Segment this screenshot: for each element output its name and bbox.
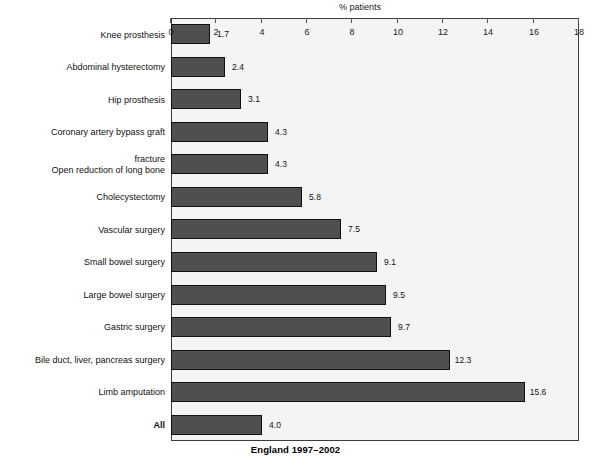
bar-value-label: 5.8 [306, 192, 324, 202]
bar-value-label: 4.0 [266, 420, 284, 430]
bar-rect [171, 57, 225, 77]
bar-value-label: 9.7 [395, 322, 413, 332]
bar-rect [171, 187, 302, 207]
bar-open-reduction-of-long-bone-fracture [171, 154, 591, 174]
x-tick-mark-0 [170, 18, 171, 23]
bar-rect [171, 154, 268, 174]
x-axis-title: % patients [129, 2, 591, 12]
bar-value-label: 9.1 [381, 257, 399, 267]
bar-value-label: 7.5 [345, 225, 363, 235]
category-label: Abdominal hysterectomy [3, 62, 165, 73]
category-label: Large bowel surgery [3, 289, 165, 300]
bar-value-label: 4.3 [272, 127, 290, 137]
category-label-line: Limb amputation [3, 387, 165, 398]
bar-value-label: 15.6 [529, 387, 547, 397]
bar-rect [171, 252, 377, 272]
bar-value-label: 2.4 [229, 62, 247, 72]
x-tick-label-10: 10 [393, 27, 403, 37]
category-label: Gastric surgery [3, 322, 165, 333]
category-label-line: Coronary artery bypass graft [3, 127, 165, 138]
category-label: Bile duct, liver, pancreas surgery [3, 354, 165, 365]
x-tick-mark-16 [533, 18, 534, 23]
bar-bile-duct-liver-pancreas-surgery [171, 350, 591, 370]
x-tick-label-0: 0 [168, 27, 173, 37]
x-tick-mark-6 [306, 18, 307, 23]
bar-value-label: 3.1 [245, 94, 263, 104]
bar-limb-amputation [171, 382, 591, 402]
category-label-line: Cholecystectomy [3, 192, 165, 203]
x-tick-mark-18 [578, 18, 579, 23]
category-label: fractureOpen reduction of long bone [3, 154, 165, 175]
bar-value-label: 4.3 [272, 159, 290, 169]
x-tick-label-8: 8 [350, 27, 355, 37]
bar-value-label: 9.5 [390, 290, 408, 300]
x-tick-mark-8 [351, 18, 352, 23]
category-label: Limb amputation [3, 387, 165, 398]
chart-title: England 1997–2002 [0, 444, 591, 455]
category-label: Hip prosthesis [3, 94, 165, 105]
x-tick-mark-14 [487, 18, 488, 23]
category-label-line: Hip prosthesis [3, 94, 165, 105]
x-tick-mark-4 [261, 18, 262, 23]
category-label: All [3, 419, 165, 430]
x-tick-label-6: 6 [304, 27, 309, 37]
category-label-line: Small bowel surgery [3, 257, 165, 268]
category-label: Coronary artery bypass graft [3, 127, 165, 138]
x-tick-mark-2 [215, 18, 216, 23]
category-label-line: Gastric surgery [3, 322, 165, 333]
category-label-line: Vascular surgery [3, 224, 165, 235]
bar-all [171, 415, 591, 435]
x-tick-mark-12 [442, 18, 443, 23]
x-tick-label-16: 16 [529, 27, 539, 37]
bar-cholecystectomy [171, 187, 591, 207]
category-label-line: All [3, 419, 165, 430]
bar-chart-figure: England 1997–2002 4.015.612.39.79.59.17.… [0, 0, 591, 463]
x-tick-label-2: 2 [214, 27, 219, 37]
category-label-line: Open reduction of long bone [3, 164, 165, 175]
category-label-line: fracture [3, 154, 165, 165]
x-tick-label-14: 14 [483, 27, 493, 37]
bar-rect [171, 317, 391, 337]
bar-rect [171, 350, 450, 370]
bar-rect [171, 415, 262, 435]
category-label-line: Large bowel surgery [3, 289, 165, 300]
category-label: Vascular surgery [3, 224, 165, 235]
x-tick-label-4: 4 [259, 27, 264, 37]
bar-vascular-surgery [171, 220, 591, 240]
category-label-line: Abdominal hysterectomy [3, 62, 165, 73]
x-tick-mark-10 [397, 18, 398, 23]
bar-large-bowel-surgery [171, 285, 591, 305]
bar-coronary-artery-bypass-graft [171, 122, 591, 142]
category-label: Cholecystectomy [3, 192, 165, 203]
bar-hip-prosthesis [171, 89, 591, 109]
bar-value-label: 12.3 [454, 355, 472, 365]
bar-rect [171, 220, 341, 240]
bar-rect [171, 382, 525, 402]
category-label: Small bowel surgery [3, 257, 165, 268]
x-tick-label-12: 12 [438, 27, 448, 37]
x-tick-label-18: 18 [574, 27, 584, 37]
chart-figure-rotated: England 1997–2002 4.015.612.39.79.59.17.… [0, 0, 591, 463]
bar-rect [171, 285, 386, 305]
bar-gastric-surgery [171, 317, 591, 337]
category-label-line: Bile duct, liver, pancreas surgery [3, 354, 165, 365]
bar-rect [171, 122, 268, 142]
bar-rect [171, 89, 241, 109]
x-axis-tick-labels: 024681012141618 [0, 23, 591, 37]
